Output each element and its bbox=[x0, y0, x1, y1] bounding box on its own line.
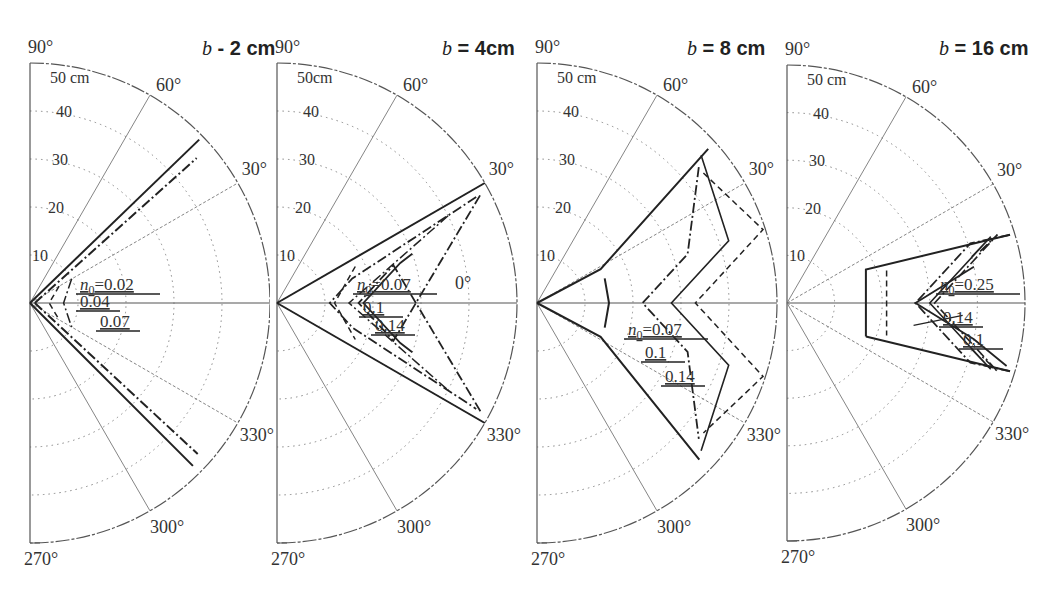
polar-panel-1: 1020304050 cm90°60°30°330°300°270°b - 2 … bbox=[24, 37, 275, 569]
angle-label: 270° bbox=[24, 549, 58, 569]
angle-label: 270° bbox=[271, 549, 305, 569]
angle-label: 300° bbox=[150, 517, 184, 537]
angle-label: 300° bbox=[906, 515, 940, 535]
angle-label: 60° bbox=[912, 77, 937, 97]
panel-title: b = 4cm bbox=[442, 37, 515, 59]
angle-label: 30° bbox=[749, 159, 774, 179]
radial-tick-label: 10 bbox=[789, 247, 805, 264]
polar-panel-3: 1020304050 cm90°60°30°330°300°270°b = 8 … bbox=[531, 37, 781, 569]
series-annotation: 0.1 bbox=[363, 298, 384, 317]
radial-unit-label: 50 cm bbox=[807, 71, 847, 88]
series-annotation: 0.04 bbox=[80, 292, 110, 311]
series-annotation: 0.14 bbox=[375, 316, 405, 335]
angle-label: 30° bbox=[489, 159, 514, 179]
angle-label: 0° bbox=[455, 273, 471, 293]
angle-label: 30° bbox=[997, 160, 1022, 180]
series-annotation: 0.14 bbox=[943, 308, 973, 327]
series-annotation: 0.14 bbox=[665, 367, 695, 386]
radial-unit-label: 50 cm bbox=[557, 69, 597, 86]
angle-label: 60° bbox=[663, 75, 688, 95]
angle-label: 30° bbox=[242, 159, 267, 179]
angle-label: 270° bbox=[531, 549, 565, 569]
radial-tick-label: 10 bbox=[539, 247, 555, 264]
radial-unit-label: 50 cm bbox=[50, 69, 90, 86]
radial-tick-label: 10 bbox=[32, 247, 48, 264]
radial-tick-label: 40 bbox=[813, 105, 829, 122]
angle-label: 60° bbox=[156, 75, 181, 95]
radial-tick-label: 40 bbox=[303, 103, 319, 120]
data-series bbox=[537, 149, 708, 303]
series-annotation: 0.07 bbox=[100, 312, 130, 331]
angular-gridline bbox=[537, 303, 745, 423]
radial-unit-label: 50cm bbox=[297, 69, 333, 86]
angle-label: 330° bbox=[240, 425, 274, 445]
radial-tick-label: 30 bbox=[52, 151, 68, 168]
angle-label: 300° bbox=[397, 517, 431, 537]
polar-figure-svg: 1020304050 cm90°60°30°330°300°270°b - 2 … bbox=[0, 0, 1053, 602]
angle-label: 90° bbox=[785, 39, 810, 59]
angular-gridline bbox=[30, 303, 238, 423]
series-annotation: 0.1 bbox=[963, 330, 984, 349]
angle-label: 60° bbox=[403, 75, 428, 95]
angular-gridline bbox=[30, 303, 150, 511]
panel-title: b - 2 cm bbox=[202, 37, 275, 59]
angle-label: 330° bbox=[995, 424, 1029, 444]
angle-label: 90° bbox=[275, 37, 300, 57]
radial-tick-label: 20 bbox=[805, 200, 821, 217]
radial-tick-label: 40 bbox=[56, 103, 72, 120]
radial-tick-label: 10 bbox=[279, 247, 295, 264]
panel-title: b = 8 cm bbox=[687, 37, 765, 59]
radial-tick-label: 30 bbox=[809, 152, 825, 169]
angle-label: 330° bbox=[487, 425, 521, 445]
angle-label: 330° bbox=[747, 425, 781, 445]
angular-gridline bbox=[787, 303, 906, 509]
panel-title: b = 16 cm bbox=[939, 37, 1029, 59]
radial-tick-label: 30 bbox=[559, 151, 575, 168]
angle-label: 300° bbox=[657, 517, 691, 537]
polar-figure: 1020304050 cm90°60°30°330°300°270°b - 2 … bbox=[0, 0, 1053, 602]
radial-tick-label: 20 bbox=[48, 199, 64, 216]
series-annotation: 0.1 bbox=[645, 343, 666, 362]
angle-label: 270° bbox=[781, 547, 815, 567]
polar-panel-4: 1020304050 cm90°60°30°330°300°270°b = 16… bbox=[781, 37, 1029, 567]
polar-panel-2: 1020304050cm90°60°30°0°330°300°270°b = 4… bbox=[271, 37, 521, 569]
radial-tick-label: 40 bbox=[563, 103, 579, 120]
angle-label: 90° bbox=[28, 37, 53, 57]
angle-label: 90° bbox=[535, 37, 560, 57]
radial-tick-label: 20 bbox=[295, 199, 311, 216]
radial-tick-label: 20 bbox=[555, 199, 571, 216]
radial-tick-label: 30 bbox=[299, 151, 315, 168]
